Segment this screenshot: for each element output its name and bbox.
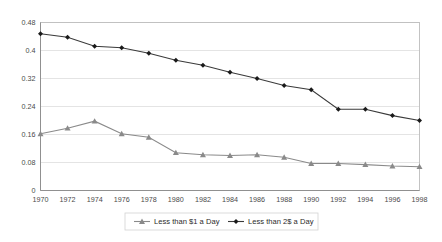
x-tick-label: 1980 [168,195,184,204]
x-tick-label: 1998 [412,195,428,204]
x-tick-label: 1992 [330,195,346,204]
data-point-series-2 [119,45,124,50]
chart-container: 00.080.160.240.320.40.48 197019721974197… [0,0,442,242]
gridlines [41,23,420,191]
data-point-series-2 [255,76,260,81]
x-tick-label: 1982 [195,195,211,204]
x-tick-label: 1996 [384,195,400,204]
x-tick-label: 1986 [249,195,265,204]
x-tick-label: 1970 [33,195,49,204]
legend-label-2: Less than 2$ a Day [248,217,314,226]
data-point-series-2 [146,51,151,56]
data-point-series-2 [363,107,368,112]
series-line-1 [41,121,420,167]
y-tick-label: 0.16 [22,130,36,139]
x-tick-label: 1994 [357,195,373,204]
x-tick-label: 1984 [222,195,238,204]
legend-label-1: Less than $1 a Day [154,217,220,226]
data-point-series-2 [417,118,422,123]
data-series-layer [38,31,423,169]
y-tick-label: 0.4 [26,46,36,55]
y-tick-label: 0.08 [22,158,36,167]
line-chart: 00.080.160.240.320.40.48 197019721974197… [0,0,442,242]
data-point-series-2 [200,63,205,68]
data-point-series-1 [92,118,98,123]
data-point-series-2 [65,35,70,40]
data-point-series-2 [38,31,43,36]
data-point-series-2 [92,44,97,49]
data-point-series-2 [282,83,287,88]
x-tick-label: 1988 [276,195,292,204]
data-point-series-2 [228,70,233,75]
y-tick-label: 0.48 [22,18,36,27]
series-line-2 [41,34,420,121]
x-tick-label: 1978 [141,195,157,204]
data-point-series-1 [119,131,125,136]
x-tick-label: 1976 [114,195,130,204]
y-tick-label: 0.32 [22,74,36,83]
x-axis-tick-labels: 1970197219741976197819801982198419861988… [33,195,428,204]
x-tick-label: 1990 [303,195,319,204]
y-tick-label: 0.24 [22,102,36,111]
data-point-series-2 [173,58,178,63]
x-tick-label: 1974 [87,195,103,204]
x-tick-label: 1972 [60,195,76,204]
data-point-series-2 [390,113,395,118]
y-axis-tick-labels: 00.080.160.240.320.40.48 [22,18,36,195]
chart-legend: Less than $1 a DayLess than 2$ a Day [125,213,318,230]
